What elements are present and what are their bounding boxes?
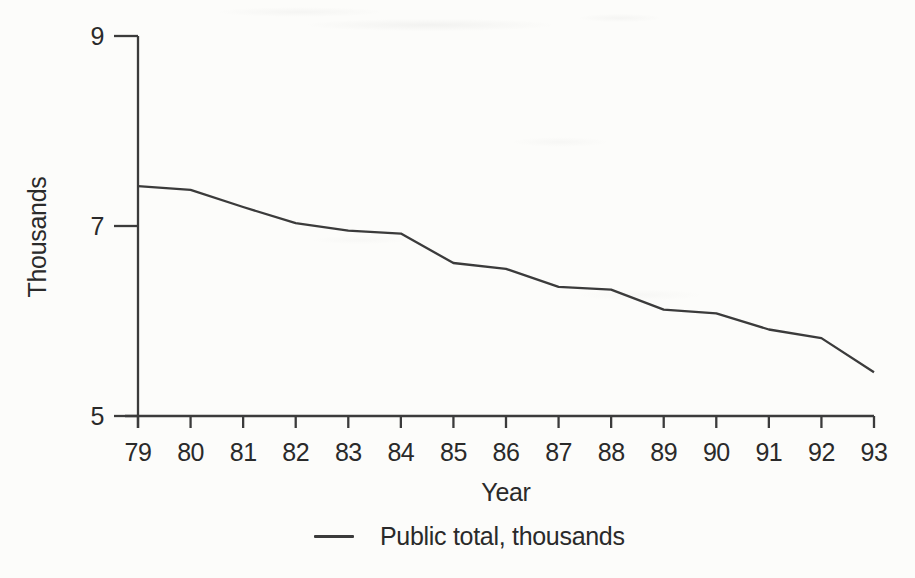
- y-tick-label: 5: [48, 401, 104, 431]
- x-tick-label: 85: [425, 437, 481, 467]
- x-tick-label: 80: [163, 437, 219, 467]
- x-axis-title: Year: [406, 478, 606, 507]
- legend-label: Public total, thousands: [380, 522, 625, 550]
- x-tick-label: 79: [110, 437, 166, 467]
- data-series-line: [138, 186, 874, 372]
- x-tick-label: 88: [583, 437, 639, 467]
- x-tick-label: 91: [741, 437, 797, 467]
- x-tick-label: 93: [846, 437, 902, 467]
- y-tick-label: 9: [48, 21, 104, 51]
- x-tick-label: 86: [478, 437, 534, 467]
- y-tick-label: 7: [48, 211, 104, 241]
- x-tick-label: 92: [793, 437, 849, 467]
- x-tick-label: 82: [268, 437, 324, 467]
- x-tick-label: 87: [531, 437, 587, 467]
- scanned-line-chart-figure: Thousands 975 79808182838485868788899091…: [0, 0, 915, 578]
- legend: Public total, thousands: [314, 522, 625, 550]
- x-tick-label: 89: [636, 437, 692, 467]
- legend-line-swatch: [314, 535, 354, 538]
- x-tick-label: 90: [688, 437, 744, 467]
- x-tick-label: 84: [373, 437, 429, 467]
- x-tick-label: 81: [215, 437, 271, 467]
- x-tick-label: 83: [320, 437, 376, 467]
